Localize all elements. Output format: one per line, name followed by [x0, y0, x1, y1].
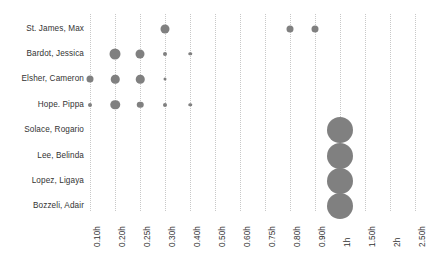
x-tick-label: 0.90h	[319, 226, 327, 247]
gridline-0.90h	[315, 14, 316, 211]
x-tick-label: 0.20h	[119, 226, 127, 247]
plot-area: St. James, MaxBardot, JessicaElsher, Cam…	[0, 0, 429, 260]
row-label: Solace, Rogario	[0, 126, 84, 134]
x-tick-label: 0.30h	[169, 226, 177, 247]
row-label: Elsher, Cameron	[0, 75, 84, 83]
data-bubble[interactable]	[137, 101, 144, 108]
gridline-2.50h	[415, 14, 416, 211]
data-bubble[interactable]	[110, 100, 120, 110]
x-tick-label: 0.50h	[219, 226, 227, 247]
x-tick-label: 0.75h	[269, 226, 277, 247]
gridline-0.40h	[190, 14, 191, 211]
gridline-0.80h	[290, 14, 291, 211]
data-bubble[interactable]	[287, 25, 294, 32]
x-tick-label: 1.50h	[369, 226, 377, 247]
data-bubble[interactable]	[163, 52, 167, 56]
data-bubble[interactable]	[188, 103, 192, 107]
row-label: Lee, Belinda	[0, 151, 84, 159]
data-bubble[interactable]	[110, 48, 121, 59]
row-label: Hope. Pippa	[0, 101, 84, 109]
gridline-0.20h	[115, 14, 116, 211]
x-tick-label: 0.60h	[244, 226, 252, 247]
x-tick-label: 0.25h	[144, 226, 152, 247]
x-tick-label: 0.40h	[194, 226, 202, 247]
data-bubble[interactable]	[136, 49, 145, 58]
gridline-1.50h	[365, 14, 366, 211]
row-label: Bardot, Jessica	[0, 50, 84, 58]
row-label: Lopez, Ligaya	[0, 177, 84, 185]
data-bubble[interactable]	[327, 143, 353, 169]
gridline-0.10h	[90, 14, 91, 211]
x-tick-label: 1h	[344, 238, 352, 247]
data-bubble[interactable]	[163, 103, 167, 107]
bubble-chart: St. James, MaxBardot, JessicaElsher, Cam…	[0, 0, 429, 260]
x-tick-label: 0.80h	[294, 226, 302, 247]
data-bubble[interactable]	[327, 117, 353, 143]
gridline-0.75h	[265, 14, 266, 211]
gridline-0.50h	[215, 14, 216, 211]
gridline-0.60h	[240, 14, 241, 211]
gridline-0.25h	[140, 14, 141, 211]
row-label: St. James, Max	[0, 24, 84, 32]
data-bubble[interactable]	[327, 168, 353, 194]
data-bubble[interactable]	[312, 25, 319, 32]
x-tick-label: 2.50h	[419, 226, 427, 247]
data-bubble[interactable]	[87, 76, 94, 83]
x-tick-label: 2h	[394, 238, 402, 247]
data-bubble[interactable]	[88, 103, 92, 107]
row-label: Bozzeli, Adair	[0, 202, 84, 210]
data-bubble[interactable]	[136, 75, 145, 84]
gridline-0.30h	[165, 14, 166, 211]
data-bubble[interactable]	[164, 78, 167, 81]
data-bubble[interactable]	[161, 24, 170, 33]
data-bubble[interactable]	[327, 193, 353, 219]
x-tick-label: 0.10h	[94, 226, 102, 247]
data-bubble[interactable]	[111, 75, 120, 84]
data-bubble[interactable]	[188, 52, 192, 56]
gridline-2h	[390, 14, 391, 211]
